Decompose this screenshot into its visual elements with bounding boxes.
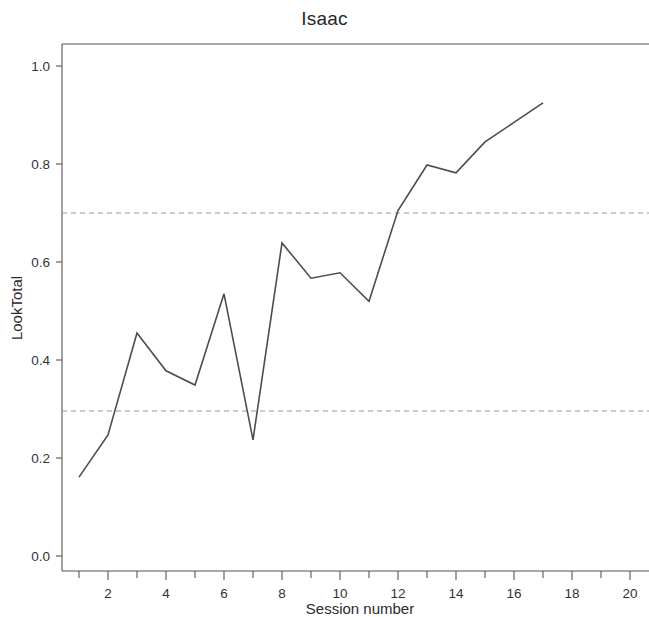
x-tick-label-14: 14: [448, 586, 464, 601]
y-tick-label-4: 0.8: [31, 157, 50, 172]
y-axis-ticks: [56, 66, 62, 556]
threshold-lines: [62, 213, 649, 411]
x-axis-title: Session number: [306, 600, 414, 617]
x-tick-label-2: 2: [104, 586, 112, 601]
x-axis-ticks: [79, 571, 630, 580]
y-tick-label-5: 1.0: [31, 59, 50, 74]
x-tick-label-20: 20: [622, 586, 637, 601]
x-tick-label-18: 18: [564, 586, 579, 601]
y-tick-label-0: 0.0: [31, 549, 50, 564]
x-tick-label-6: 6: [220, 586, 228, 601]
x-tick-label-16: 16: [506, 586, 521, 601]
x-tick-label-4: 4: [162, 586, 170, 601]
chart-figure: Isaac 0.0 0.2 0.4 0.6 0.8: [0, 0, 649, 617]
x-tick-label-8: 8: [278, 586, 286, 601]
x-tick-labels: 2 4 6 8 10 12 14 16 18 20: [104, 586, 637, 601]
data-series-line: [79, 103, 543, 477]
y-axis-title: LookTotal: [8, 276, 25, 340]
y-tick-labels: 0.0 0.2 0.4 0.6 0.8 1.0: [31, 59, 50, 564]
plot-frame: [62, 44, 649, 571]
line-chart-plot: 0.0 0.2 0.4 0.6 0.8 1.0: [0, 0, 649, 617]
y-tick-label-2: 0.4: [31, 353, 50, 368]
y-tick-label-3: 0.6: [31, 255, 50, 270]
y-tick-label-1: 0.2: [31, 451, 50, 466]
x-tick-label-10: 10: [332, 586, 347, 601]
x-tick-label-12: 12: [390, 586, 405, 601]
